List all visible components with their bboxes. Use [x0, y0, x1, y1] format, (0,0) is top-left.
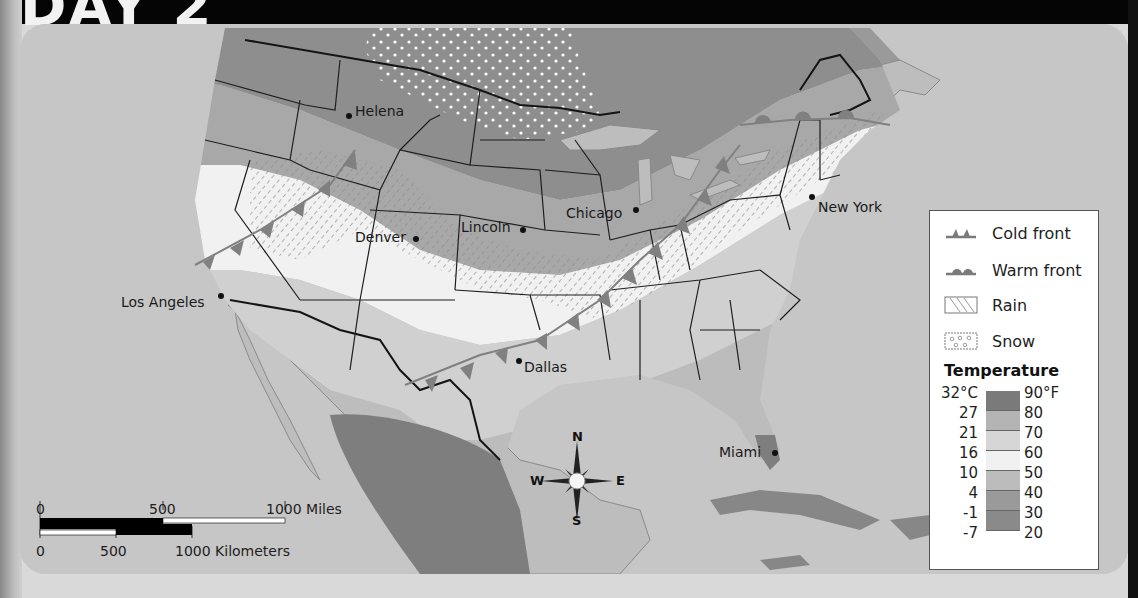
- celsius-scale: 32°C 27 21 16 10 4 -1 -7: [938, 383, 978, 543]
- snow-icon: [944, 332, 978, 350]
- legend-label: Rain: [992, 296, 1027, 315]
- fahrenheit-tick: 70: [1024, 423, 1064, 443]
- city-label-dallas: Dallas: [524, 360, 567, 374]
- scale-miles-end: 1000 Miles: [266, 502, 342, 516]
- header-bar: DAY 2: [0, 0, 1138, 24]
- fahrenheit-tick: 40: [1024, 483, 1064, 503]
- ramp-swatch: [986, 511, 1020, 531]
- compass-east: E: [616, 474, 625, 487]
- city-label-lincoln: Lincoln: [461, 220, 511, 234]
- temperature-heading: Temperature: [944, 361, 1059, 380]
- ramp-swatch: [986, 411, 1020, 431]
- rain-icon: [944, 296, 978, 314]
- scale-km-zero: 0: [36, 544, 45, 558]
- fahrenheit-tick: 90°F: [1024, 383, 1064, 403]
- celsius-tick: 4: [938, 483, 978, 503]
- warm-front-icon: [944, 261, 978, 279]
- lake-michigan: [638, 158, 652, 205]
- map-legend: Cold front Warm front Rain Snow Temperat…: [929, 210, 1099, 570]
- ramp-swatch: [986, 391, 1020, 411]
- legend-item-warm-front: Warm front: [944, 259, 1082, 281]
- scale-km-end: 1000 Kilometers: [175, 544, 290, 558]
- legend-label: Snow: [992, 332, 1035, 351]
- scale-miles-mid: 500: [149, 502, 176, 516]
- city-label-miami: Miami: [719, 445, 761, 459]
- celsius-tick: -1: [938, 503, 978, 523]
- ramp-swatch: [986, 491, 1020, 511]
- legend-item-snow: Snow: [944, 330, 1035, 352]
- celsius-tick: -7: [938, 523, 978, 543]
- legend-item-rain: Rain: [944, 294, 1027, 316]
- fahrenheit-scale: 90°F 80 70 60 50 40 30 20: [1024, 383, 1064, 543]
- city-label-los-angeles: Los Angeles: [121, 295, 205, 309]
- compass-west: W: [530, 474, 544, 487]
- celsius-tick: 27: [938, 403, 978, 423]
- legend-label: Cold front: [992, 224, 1071, 243]
- ramp-swatch: [986, 471, 1020, 491]
- legend-label: Warm front: [992, 261, 1082, 280]
- compass-south: S: [572, 514, 581, 527]
- fahrenheit-tick: 80: [1024, 403, 1064, 423]
- city-label-denver: Denver: [355, 230, 406, 244]
- compass-north: N: [572, 430, 583, 443]
- ramp-swatch: [986, 451, 1020, 471]
- celsius-tick: 16: [938, 443, 978, 463]
- celsius-tick: 21: [938, 423, 978, 443]
- celsius-tick: 32°C: [938, 383, 978, 403]
- fahrenheit-tick: 50: [1024, 463, 1064, 483]
- city-label-new-york: New York: [818, 200, 882, 214]
- celsius-tick: 10: [938, 463, 978, 483]
- city-label-chicago: Chicago: [566, 206, 622, 220]
- legend-item-cold-front: Cold front: [944, 222, 1071, 244]
- city-label-helena: Helena: [355, 104, 404, 118]
- weather-map: Helena Lincoln Chicago New York Denver L…: [20, 24, 1128, 574]
- cold-front-icon: [944, 224, 978, 242]
- scale-km-mid: 500: [100, 544, 127, 558]
- page-edge-shadow: [0, 0, 22, 598]
- fahrenheit-tick: 20: [1024, 523, 1064, 543]
- page-edge-right: [1128, 0, 1138, 598]
- temperature-color-ramp: [986, 391, 1020, 531]
- fahrenheit-tick: 60: [1024, 443, 1064, 463]
- fahrenheit-tick: 30: [1024, 503, 1064, 523]
- ramp-swatch: [986, 431, 1020, 451]
- scale-miles-zero: 0: [36, 502, 45, 516]
